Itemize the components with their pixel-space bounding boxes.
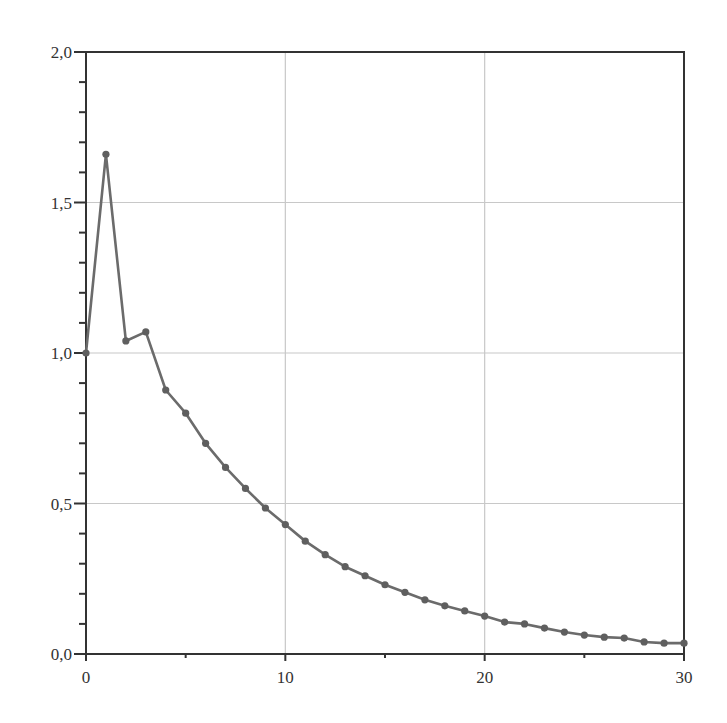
y-tick-label: 1,0 <box>51 344 72 363</box>
data-point-marker <box>122 337 129 344</box>
data-point-marker <box>680 640 687 647</box>
series-line <box>86 154 684 643</box>
data-point-marker <box>441 602 448 609</box>
data-point-marker <box>501 618 508 625</box>
data-point-marker <box>581 631 588 638</box>
data-point-marker <box>242 485 249 492</box>
data-point-marker <box>561 628 568 635</box>
data-point-marker <box>601 634 608 641</box>
data-point-marker <box>641 638 648 645</box>
data-point-marker <box>621 634 628 641</box>
grid-lines <box>86 52 684 654</box>
y-tick-label: 2,0 <box>51 43 72 62</box>
x-tick-label: 0 <box>82 668 91 687</box>
data-point-marker <box>302 538 309 545</box>
y-tick-label: 1,5 <box>51 194 72 213</box>
line-chart: 0102030 0,00,51,01,52,0 <box>0 0 727 723</box>
data-point-marker <box>162 386 169 393</box>
data-point-marker <box>262 504 269 511</box>
data-point-marker <box>660 640 667 647</box>
data-point-marker <box>202 440 209 447</box>
y-axis-tick-labels: 0,00,51,01,52,0 <box>51 43 72 664</box>
data-point-marker <box>401 589 408 596</box>
data-point-marker <box>322 551 329 558</box>
data-point-marker <box>222 464 229 471</box>
data-point-marker <box>142 328 149 335</box>
data-point-marker <box>381 581 388 588</box>
x-tick-label: 20 <box>476 668 493 687</box>
data-point-marker <box>82 349 89 356</box>
x-tick-label: 30 <box>676 668 693 687</box>
y-tick-label: 0,5 <box>51 495 72 514</box>
axis-ticks <box>74 52 684 661</box>
data-point-marker <box>541 625 548 632</box>
data-point-marker <box>182 410 189 417</box>
data-point-marker <box>102 151 109 158</box>
data-point-marker <box>342 563 349 570</box>
data-point-marker <box>282 521 289 528</box>
x-axis-tick-labels: 0102030 <box>82 668 693 687</box>
data-point-marker <box>461 607 468 614</box>
data-point-marker <box>481 612 488 619</box>
data-point-marker <box>421 596 428 603</box>
data-point-marker <box>361 572 368 579</box>
data-series <box>82 151 687 647</box>
data-point-marker <box>521 620 528 627</box>
y-tick-label: 0,0 <box>51 645 72 664</box>
x-tick-label: 10 <box>277 668 294 687</box>
